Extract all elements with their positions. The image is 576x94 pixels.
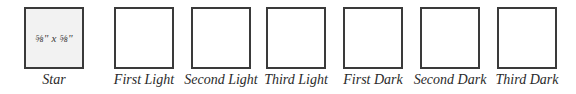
swatch-box-third-dark bbox=[497, 7, 557, 69]
swatch-box-third-light bbox=[266, 7, 326, 69]
swatch-second-light: Second Light bbox=[191, 7, 251, 87]
swatch-label-first-dark: First Dark bbox=[343, 72, 403, 88]
swatch-first-light: First Light bbox=[114, 7, 174, 87]
swatch-size-text: ⅝" x ⅝" bbox=[35, 32, 73, 44]
swatch-label-third-dark: Third Dark bbox=[496, 72, 559, 88]
swatch-box-first-dark bbox=[343, 7, 403, 69]
swatch-label-first-light: First Light bbox=[114, 72, 174, 88]
swatch-box-second-light bbox=[191, 7, 251, 69]
swatch-box-star: ⅝" x ⅝" bbox=[24, 7, 84, 69]
swatch-label-third-light: Third Light bbox=[264, 72, 328, 88]
swatch-star: ⅝" x ⅝" Star bbox=[24, 7, 84, 87]
swatch-third-dark: Third Dark bbox=[497, 7, 557, 87]
swatch-box-first-light bbox=[114, 7, 174, 69]
swatch-label-second-light: Second Light bbox=[184, 72, 258, 88]
swatch-label-second-dark: Second Dark bbox=[414, 72, 487, 88]
swatch-third-light: Third Light bbox=[266, 7, 326, 87]
swatch-box-second-dark bbox=[420, 7, 480, 69]
swatch-second-dark: Second Dark bbox=[420, 7, 480, 87]
swatch-label-star: Star bbox=[42, 72, 65, 88]
swatch-first-dark: First Dark bbox=[343, 7, 403, 87]
